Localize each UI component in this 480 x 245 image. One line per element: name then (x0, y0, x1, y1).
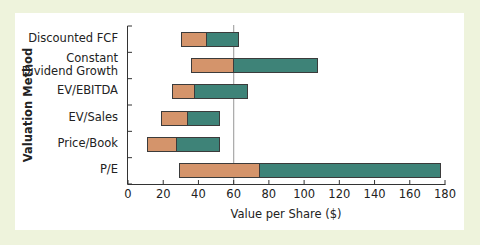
category-label-line: Discounted FCF (28, 32, 118, 45)
x-axis-ticks (128, 180, 445, 185)
category-label: P/E (100, 163, 118, 176)
bar-segment-high (207, 32, 239, 47)
x-axis-title: Value per Share ($) (230, 207, 341, 221)
bar-segment-low (147, 137, 177, 152)
bar-segment-high (195, 84, 248, 99)
category-label-line: Price/Book (57, 137, 118, 150)
category-label: Discounted FCF (28, 32, 118, 45)
x-tick-label: 100 (293, 187, 315, 201)
valuation-range-chart: Discounted FCFConstantDividend GrowthEV/… (0, 0, 480, 245)
y-axis-title: Valuation Method (21, 48, 35, 163)
bar-segment-low (161, 111, 187, 126)
y-axis-ticks (128, 26, 133, 184)
category-label-line: Constant (22, 52, 118, 65)
x-tick-label: 0 (124, 187, 131, 201)
x-tick-label: 120 (328, 187, 350, 201)
category-label: ConstantDividend Growth (22, 52, 118, 78)
category-label-line: EV/Sales (68, 111, 118, 124)
x-tick-label: 180 (434, 187, 456, 201)
x-tick-label: 20 (156, 187, 171, 201)
category-label: EV/EBITDA (57, 84, 118, 97)
bar-segment-high (188, 111, 220, 126)
bar-segment-high (177, 137, 219, 152)
bar-segment-low (172, 84, 195, 99)
category-label-line: EV/EBITDA (57, 84, 118, 97)
x-tick-label: 60 (226, 187, 241, 201)
x-tick-label: 140 (364, 187, 386, 201)
x-tick-label: 40 (191, 187, 206, 201)
category-label-line: P/E (100, 163, 118, 176)
bar-segment-low (191, 58, 233, 73)
category-label: EV/Sales (68, 111, 118, 124)
category-label: Price/Book (57, 137, 118, 150)
bar-segment-low (179, 163, 260, 178)
bar-segment-high (260, 163, 441, 178)
bar-segment-high (234, 58, 319, 73)
category-label-line: Dividend Growth (22, 65, 118, 78)
bar-segment-low (181, 32, 207, 47)
x-tick-label: 80 (262, 187, 277, 201)
x-tick-label: 160 (399, 187, 421, 201)
